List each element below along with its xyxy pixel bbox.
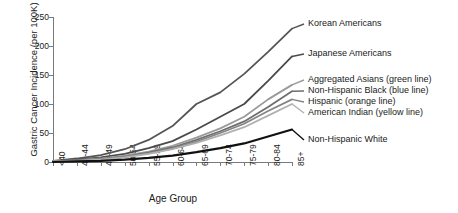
series-label-american-indian: American Indian (yellow line) bbox=[308, 107, 423, 117]
series-label-hispanic: Hispanic (orange line) bbox=[308, 96, 396, 106]
series-leader-line bbox=[292, 130, 304, 140]
series-label-aggregated-asians: Aggregated Asians (green line) bbox=[308, 74, 432, 84]
series-leader-line bbox=[292, 99, 304, 102]
x-axis-title: Age Group bbox=[53, 193, 293, 204]
series-leader-line bbox=[292, 104, 304, 113]
gastric-cancer-incidence-chart: Gastric Cancer Incidence (per 100K) 0501… bbox=[0, 0, 458, 213]
series-leader-line bbox=[292, 54, 304, 56]
series-label-korean-americans: Korean Americans bbox=[308, 18, 382, 28]
series-label-non-hispanic-black: Non-Hispanic Black (blue line) bbox=[308, 85, 429, 95]
series-leader-line bbox=[292, 24, 304, 29]
series-leader-line bbox=[292, 80, 304, 85]
series-label-non-hispanic-white: Non-Hispanic White bbox=[308, 134, 388, 144]
series-line bbox=[53, 104, 292, 161]
series-label-japanese-americans: Japanese Americans bbox=[308, 48, 392, 58]
